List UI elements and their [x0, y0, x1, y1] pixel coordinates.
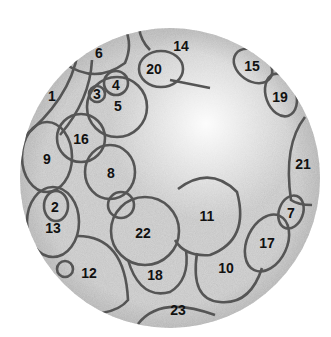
region-label-20: 20	[146, 61, 162, 77]
region-label-3: 3	[93, 86, 101, 102]
region-label-11: 11	[200, 208, 215, 224]
region-label-6: 6	[95, 45, 103, 61]
region-label-2: 2	[51, 199, 59, 215]
region-label-18: 18	[147, 267, 163, 283]
region-label-21: 21	[295, 156, 311, 172]
region-label-5: 5	[114, 98, 122, 114]
region-label-14: 14	[173, 38, 189, 54]
region-label-16: 16	[73, 131, 89, 147]
region-label-4: 4	[112, 77, 120, 93]
region-label-1: 1	[48, 88, 56, 104]
region-label-13: 13	[45, 220, 61, 236]
region-label-19: 19	[272, 89, 288, 105]
region-label-22: 22	[135, 225, 151, 241]
region-label-10: 10	[218, 260, 234, 276]
region-label-7: 7	[287, 205, 295, 221]
region-label-9: 9	[43, 151, 51, 167]
region-label-23: 23	[170, 302, 186, 318]
region-label-12: 12	[81, 265, 97, 281]
dish-figure: 1 2 3 4 5 6 7 8 9 10 11 12 13 14 15 16 1…	[0, 0, 331, 337]
region-label-8: 8	[107, 165, 115, 181]
region-label-17: 17	[259, 235, 275, 251]
region-label-15: 15	[244, 58, 260, 74]
